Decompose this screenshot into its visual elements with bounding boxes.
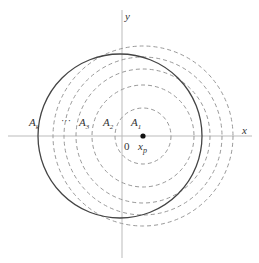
region-label-ak: Ak bbox=[28, 116, 40, 131]
region-label-a3-sub: 3 bbox=[85, 123, 90, 131]
point-xp-label: xp bbox=[137, 140, 147, 155]
point-xp-sub: p bbox=[142, 146, 147, 155]
region-label-a2-sub: 2 bbox=[110, 123, 114, 131]
x-axis-label: x bbox=[241, 124, 247, 136]
origin-label: 0 bbox=[124, 140, 130, 152]
region-label-ellipsis: ··· bbox=[61, 115, 71, 126]
diagram-canvas: x y 0 xp Ak ··· A3 A2 A1 bbox=[0, 0, 259, 263]
region-label-a1-sub: 1 bbox=[138, 123, 142, 131]
region-label-a1: A1 bbox=[130, 116, 141, 131]
y-axis-label: y bbox=[124, 10, 130, 22]
region-label-a2: A2 bbox=[102, 116, 114, 131]
region-label-a3: A3 bbox=[78, 116, 90, 131]
point-xp-dot bbox=[140, 133, 145, 138]
